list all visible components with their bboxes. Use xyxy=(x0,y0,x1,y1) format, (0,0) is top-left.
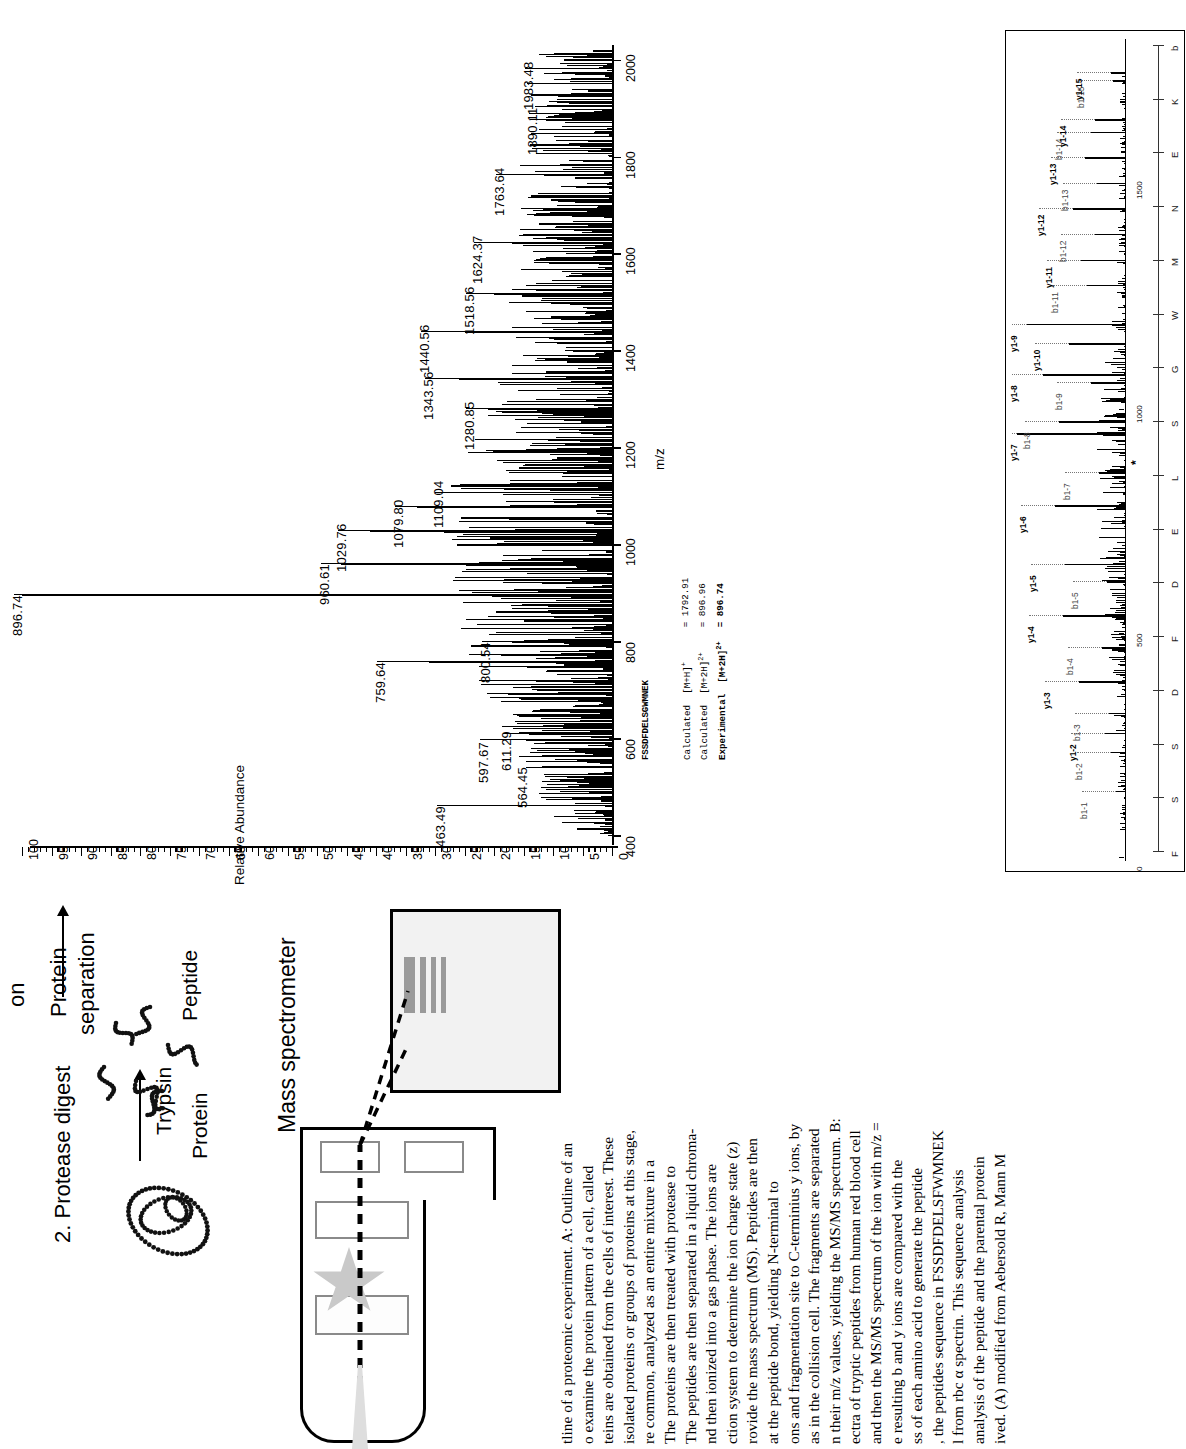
panel-a-peak xyxy=(543,150,612,151)
panel-a-peak xyxy=(597,513,612,514)
panel-b-sequence-letter: K xyxy=(1169,98,1180,104)
panel-b-peak xyxy=(1116,327,1125,328)
panel-a-peak xyxy=(547,756,612,758)
panel-b-sequence-letter: S xyxy=(1169,743,1180,749)
panel-a-abundance-tick xyxy=(347,847,348,856)
panel-b-peak xyxy=(1122,313,1125,314)
panel-b-sequence-letter: E xyxy=(1169,152,1180,158)
panel-a-abundance-tick-label: 55 xyxy=(293,846,307,860)
panel-b-peak xyxy=(1120,143,1125,144)
panel-a-peak xyxy=(601,321,612,322)
panel-b-sequence-tick xyxy=(1153,421,1164,422)
panel-b-ion-leader xyxy=(1057,382,1091,383)
panel-a-peak xyxy=(556,226,612,227)
panel-a-peak xyxy=(537,750,612,751)
panel-b-peak xyxy=(1119,198,1125,199)
panel-a-abundance-tick xyxy=(435,847,436,856)
panel-a-peak xyxy=(469,527,612,528)
panel-b-ion-peak xyxy=(1097,183,1125,185)
panel-a-abundance-tick xyxy=(170,847,171,856)
panel-b-peak xyxy=(1119,644,1125,645)
caption-line: nd then ionized into a gas phase. The io… xyxy=(702,1164,720,1444)
panel-b-peak xyxy=(1105,568,1125,569)
panel-b-sequence-letter: S xyxy=(1169,421,1180,427)
panel-a-peak xyxy=(602,524,612,525)
panel-a-peak xyxy=(605,583,612,584)
panel-a-peak xyxy=(521,427,612,428)
panel-b-peak xyxy=(1124,788,1125,789)
panel-b-peak xyxy=(1124,709,1125,710)
panel-a-peak xyxy=(569,143,612,145)
panel-a-peak xyxy=(606,368,612,369)
panel-a-abundance-tick-label: 80 xyxy=(145,846,159,860)
panel-a-peak xyxy=(604,815,612,816)
panel-a-peak xyxy=(526,767,612,768)
panel-b-peak xyxy=(1120,555,1125,556)
panel-b-ion-leader xyxy=(1053,285,1087,286)
panel-b-peak xyxy=(1117,380,1125,381)
panel-a-peak xyxy=(575,689,612,690)
panel-b-peak xyxy=(1123,173,1125,174)
panel-a-peak xyxy=(499,411,612,412)
panel-a-peak xyxy=(577,760,612,761)
panel-b-y-ion-label: y1-9 xyxy=(1009,335,1019,352)
panel-b-peak xyxy=(1114,351,1125,352)
panel-b-sequence-tick xyxy=(1153,475,1164,476)
panel-b-peak xyxy=(1124,620,1125,621)
panel-b-peak xyxy=(1124,228,1125,229)
panel-a-peak xyxy=(494,293,612,295)
panel-a-mz-axis xyxy=(612,45,614,845)
peptide-mass-table: Calculated [M+H]+= 1792.91Calculated [M+… xyxy=(678,578,731,760)
panel-b-peak xyxy=(1120,675,1125,676)
panel-b-peak xyxy=(1121,147,1125,148)
panel-b-ion-peak xyxy=(1055,505,1125,507)
panel-b-ion-peak xyxy=(1079,681,1125,683)
panel-b-peak xyxy=(1121,238,1125,239)
panel-b-peak xyxy=(1124,585,1125,586)
panel-a-peak xyxy=(566,587,612,588)
panel-a-peak xyxy=(595,314,612,315)
panel-a-peak xyxy=(571,78,612,79)
panel-a-abundance-tick-label: 35 xyxy=(411,846,425,860)
panel-a-peak xyxy=(605,811,612,812)
panel-b-peak xyxy=(1118,307,1125,308)
panel-b-peak xyxy=(1106,400,1125,401)
panel-a-peak xyxy=(607,574,612,575)
panel-a-peak xyxy=(558,502,612,503)
panel-b-peak xyxy=(1105,362,1125,363)
panel-a-peak xyxy=(577,482,612,483)
panel-b-b-ion-label: b1-3 xyxy=(1072,724,1082,741)
panel-b-peak xyxy=(1106,557,1125,558)
panel-a-peak xyxy=(609,268,612,269)
panel-a-peak xyxy=(527,423,612,424)
panel-a-peak xyxy=(575,803,612,804)
panel-a-peak xyxy=(601,633,612,634)
panel-a-peak xyxy=(597,317,612,318)
caption-line: The peptides are then separated in a liq… xyxy=(682,1129,700,1444)
panel-a-peak xyxy=(548,439,612,441)
panel-a-peak xyxy=(606,441,612,443)
panel-a-peak xyxy=(605,413,612,414)
panel-a-ms-spectrum: 463.49564.45597.67611.29759.64800.54896.… xyxy=(0,0,700,900)
panel-b-peak xyxy=(1117,367,1125,368)
panel-b-peak xyxy=(1123,670,1125,671)
panel-a-peak xyxy=(567,361,612,362)
panel-b-peak xyxy=(1122,297,1125,298)
panel-a-peak xyxy=(417,506,612,508)
schematic-ms-label: Mass spectrometer xyxy=(274,937,301,1133)
panel-a-peak xyxy=(479,680,612,681)
panel-a-peak xyxy=(546,56,612,57)
panel-a-mz-tick-label: 1400 xyxy=(624,345,638,373)
panel-a-peak xyxy=(561,186,612,187)
panel-a-peak xyxy=(572,89,612,90)
panel-a-peak xyxy=(526,311,612,312)
panel-b-peak xyxy=(1119,176,1125,177)
panel-b-peak xyxy=(1123,96,1125,97)
panel-a-abundance-minor-tick xyxy=(588,847,589,852)
panel-a-abundance-tick xyxy=(258,847,259,856)
panel-b-peak xyxy=(1122,144,1125,145)
panel-a-peak xyxy=(564,59,612,61)
peptide-info-block: FSSDFDELSGWMNEK Calculated [M+H]+= 1792.… xyxy=(615,578,743,760)
panel-a-peak xyxy=(533,710,612,711)
panel-a-abundance-minor-tick xyxy=(518,847,519,852)
